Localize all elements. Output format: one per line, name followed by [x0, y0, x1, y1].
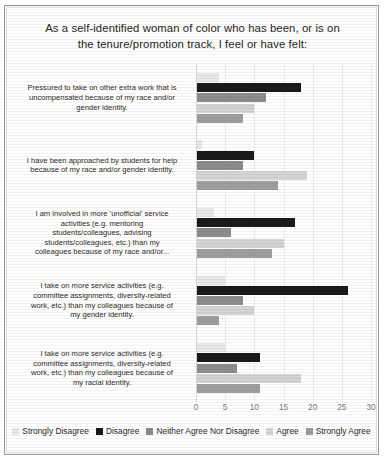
legend-swatch-icon — [306, 428, 313, 435]
category-label-line: I have been approached by students for h… — [13, 156, 191, 166]
legend-label: Strongly Disagree — [22, 426, 89, 436]
bars-container — [196, 267, 374, 335]
bar-agree — [196, 104, 254, 113]
category-label-line: committee assignments, diversity-related — [13, 291, 191, 301]
x-tick-30: 30 — [366, 402, 375, 412]
legend-item[interactable]: Neither Agree Nor Disagree — [146, 426, 259, 436]
bar-neither-agree-nor-disagree — [196, 296, 243, 305]
legend-label: Strongly Agree — [316, 426, 371, 436]
x-axis-tick-labels: 051015202530 — [11, 402, 374, 418]
category-label: I take on more service activities (e.g.c… — [13, 349, 191, 387]
legend-label: Agree — [276, 426, 298, 436]
category-label: Pressured to take on other extra work th… — [13, 83, 191, 112]
bar-strongly-agree — [196, 181, 278, 190]
bar-agree — [196, 374, 301, 383]
legend-swatch-icon — [96, 428, 103, 435]
legend-label: Disagree — [106, 426, 140, 436]
bars-container — [196, 199, 374, 267]
legend-item[interactable]: Strongly Agree — [306, 426, 371, 436]
value-axis-line — [196, 64, 197, 402]
category-label-line: I take on more service activities (e.g. — [13, 349, 191, 359]
bar-group: I have been approached by students for h… — [11, 132, 374, 200]
bar-neither-agree-nor-disagree — [196, 228, 231, 237]
category-label: I am involved in more 'unofficial' servi… — [13, 209, 191, 257]
legend-swatch-icon — [266, 428, 273, 435]
bar-strongly-disagree — [196, 343, 225, 352]
bar-strongly-disagree — [196, 73, 219, 82]
category-label-line: work, etc.) than my colleagues because o… — [13, 368, 191, 378]
x-tick-15: 15 — [279, 402, 288, 412]
category-label-line: activities (e.g. mentoring — [13, 219, 191, 229]
category-label-line: uncompensated because of my race and/or — [13, 93, 191, 103]
bar-strongly-agree — [196, 316, 219, 325]
bar-agree — [196, 239, 284, 248]
category-label-line: students/colleagues, etc.) than my — [13, 238, 191, 248]
bars-container — [196, 132, 374, 200]
bar-disagree — [196, 83, 301, 92]
category-label-line: my racial identity. — [13, 378, 191, 388]
chart-legend: Strongly DisagreeDisagreeNeither Agree N… — [5, 426, 378, 436]
bar-disagree — [196, 218, 295, 227]
legend-swatch-icon — [12, 428, 19, 435]
bar-strongly-agree — [196, 384, 260, 393]
category-label-line: I am involved in more 'unofficial' servi… — [13, 209, 191, 219]
chart-frame: As a self-identified woman of color who … — [4, 5, 379, 455]
bar-disagree — [196, 353, 260, 362]
x-tick-25: 25 — [337, 402, 346, 412]
bars-container — [196, 64, 374, 132]
x-tick-5: 5 — [223, 402, 228, 412]
category-label-line: committee assignments, diversity-related — [13, 359, 191, 369]
category-label-line: Pressured to take on other extra work th… — [13, 83, 191, 93]
category-label: I have been approached by students for h… — [13, 156, 191, 175]
bar-group: Pressured to take on other extra work th… — [11, 64, 374, 132]
plot-area: Pressured to take on other extra work th… — [11, 64, 374, 402]
legend-swatch-icon — [146, 428, 153, 435]
bar-neither-agree-nor-disagree — [196, 161, 243, 170]
bar-neither-agree-nor-disagree — [196, 93, 266, 102]
x-tick-10: 10 — [250, 402, 259, 412]
category-label-line: my gender identity. — [13, 310, 191, 320]
category-label-line: colleagues because of my race and/or... — [13, 247, 191, 257]
category-label-line: I take on more service activities (e.g. — [13, 281, 191, 291]
bar-group: I take on more service activities (e.g.c… — [11, 334, 374, 402]
chart-title-line-1: As a self-identified woman of color who … — [19, 20, 366, 36]
category-label-line: because of my race and/or gender identit… — [13, 165, 191, 175]
legend-item[interactable]: Agree — [266, 426, 298, 436]
x-tick-0: 0 — [194, 402, 199, 412]
bar-group: I am involved in more 'unofficial' servi… — [11, 199, 374, 267]
bar-agree — [196, 306, 254, 315]
x-tick-20: 20 — [308, 402, 317, 412]
category-label: I take on more service activities (e.g.c… — [13, 281, 191, 319]
chart-title: As a self-identified woman of color who … — [19, 20, 366, 52]
bar-strongly-disagree — [196, 208, 214, 217]
legend-item[interactable]: Strongly Disagree — [12, 426, 89, 436]
legend-item[interactable]: Disagree — [96, 426, 140, 436]
bar-disagree — [196, 151, 254, 160]
bar-strongly-disagree — [196, 276, 225, 285]
bars-container — [196, 334, 374, 402]
bar-strongly-agree — [196, 114, 243, 123]
bar-neither-agree-nor-disagree — [196, 364, 237, 373]
category-label-line: gender identity. — [13, 103, 191, 113]
chart-title-line-2: the tenure/promotion track, I feel or ha… — [19, 36, 366, 52]
legend-label: Neither Agree Nor Disagree — [156, 426, 259, 436]
bar-strongly-agree — [196, 249, 272, 258]
category-label-line: students/colleagues, advising — [13, 228, 191, 238]
bar-group: I take on more service activities (e.g.c… — [11, 267, 374, 335]
bar-disagree — [196, 286, 348, 295]
bar-agree — [196, 171, 307, 180]
category-label-line: work, etc.) than my colleagues because o… — [13, 301, 191, 311]
